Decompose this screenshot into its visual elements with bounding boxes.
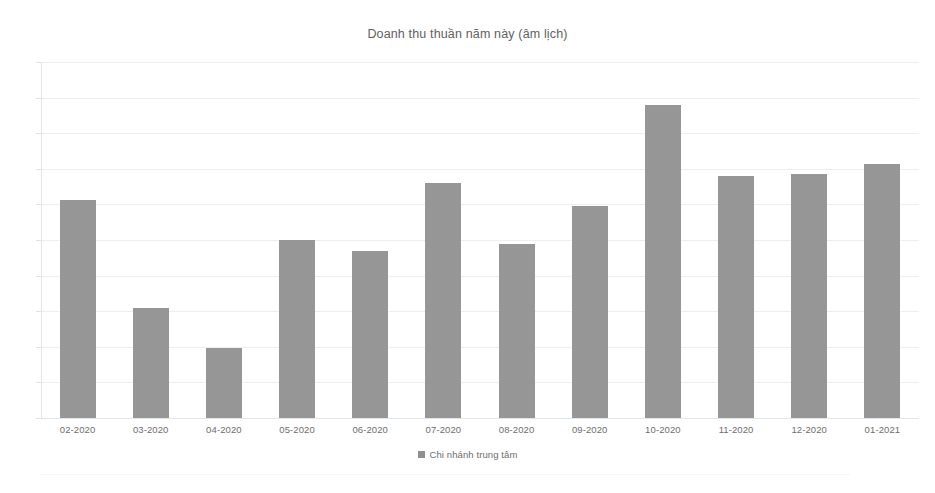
bars-layer: [41, 62, 919, 418]
x-axis-labels: 02-202003-202004-202005-202006-202007-20…: [41, 424, 919, 440]
bar-09-2020[interactable]: [572, 206, 608, 418]
x-axis-label-10-2020: 10-2020: [626, 424, 699, 435]
x-axis-label-07-2020: 07-2020: [407, 424, 480, 435]
x-axis-label-08-2020: 08-2020: [480, 424, 553, 435]
x-axis-label-12-2020: 12-2020: [773, 424, 846, 435]
legend-swatch-icon: [418, 451, 425, 458]
x-axis-label-02-2020: 02-2020: [41, 424, 114, 435]
x-axis-line: [41, 418, 919, 419]
bar-05-2020[interactable]: [279, 240, 315, 418]
bar-02-2020[interactable]: [60, 200, 96, 418]
x-axis-label-05-2020: 05-2020: [261, 424, 334, 435]
x-axis-label-06-2020: 06-2020: [334, 424, 407, 435]
chart-title: Doanh thu thuần năm này (âm lịch): [0, 27, 935, 41]
x-axis-label-11-2020: 11-2020: [700, 424, 773, 435]
x-axis-label-03-2020: 03-2020: [114, 424, 187, 435]
bar-08-2020[interactable]: [499, 244, 535, 418]
bar-04-2020[interactable]: [206, 348, 242, 418]
x-axis-label-04-2020: 04-2020: [187, 424, 260, 435]
x-axis-label-09-2020: 09-2020: [553, 424, 626, 435]
x-axis-label-01-2021: 01-2021: [846, 424, 919, 435]
bar-06-2020[interactable]: [352, 251, 388, 418]
legend-label: Chi nhánh trung tâm: [430, 449, 518, 460]
bar-12-2020[interactable]: [791, 174, 827, 418]
bar-chart: Doanh thu thuần năm này (âm lịch) 02-202…: [0, 0, 935, 493]
bar-07-2020[interactable]: [425, 183, 461, 418]
chart-legend: Chi nhánh trung tâm: [0, 449, 935, 460]
bar-01-2021[interactable]: [864, 164, 900, 418]
bar-10-2020[interactable]: [645, 105, 681, 418]
bottom-separator: [40, 474, 850, 475]
bar-03-2020[interactable]: [133, 308, 169, 418]
bar-11-2020[interactable]: [718, 176, 754, 418]
